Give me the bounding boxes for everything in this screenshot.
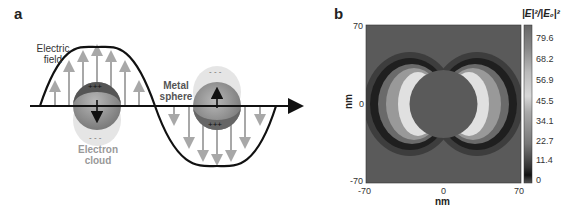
colorbar-tick: 34.1 [536,116,554,126]
colorbar-tick: 79.6 [536,33,554,43]
x-tick: 70 [514,186,524,196]
colorbar-tick: 68.2 [536,54,554,64]
colorbar-tick: 11.4 [536,155,553,165]
colorbar-title: |E|²/|E₀|² [522,8,560,19]
x-tick: -70 [358,186,371,196]
colorbar-tick: 45.5 [536,96,554,106]
field-heatmap [0,0,578,209]
y-tick: 70 [353,21,363,31]
x-axis-label: nm [435,196,450,207]
colorbar [524,25,532,183]
x-tick: 0 [441,186,446,196]
colorbar-tick: 22.7 [536,136,554,146]
colorbar-tick: 0 [536,175,541,185]
colorbar-tick: 56.9 [536,75,554,85]
y-tick: 0 [359,99,364,109]
y-tick: -70 [350,176,363,186]
y-axis-label: nm [343,94,354,109]
